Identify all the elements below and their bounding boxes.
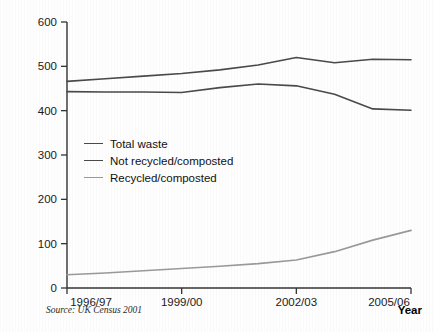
y-tick-label: 0 bbox=[51, 282, 57, 294]
y-tick-label: 300 bbox=[38, 149, 57, 161]
y-tick-label: 400 bbox=[38, 105, 57, 117]
legend-label-recycled: Recycled/composted bbox=[110, 172, 217, 184]
x-tick-label: 2002/03 bbox=[276, 296, 318, 308]
legend-item-not-recycled: Not recycled/composted bbox=[84, 153, 233, 168]
waste-per-person-line-chart: Waste (kg person⁻¹ yr⁻¹) 010020030040050… bbox=[0, 0, 434, 332]
y-tick-label: 200 bbox=[38, 193, 57, 205]
legend-swatch-recycled bbox=[84, 177, 103, 178]
legend-label-total-waste: Total waste bbox=[110, 138, 168, 150]
series-line-2 bbox=[67, 230, 411, 274]
legend-swatch-total-waste bbox=[84, 143, 103, 144]
source-note: Source: UK Census 2001 bbox=[46, 305, 142, 315]
x-tick-label: 1999/00 bbox=[161, 296, 203, 308]
y-tick-label: 100 bbox=[38, 238, 57, 250]
series-line-1 bbox=[67, 84, 411, 110]
y-tick-label: 500 bbox=[38, 60, 57, 72]
series-line-0 bbox=[67, 57, 411, 81]
x-axis-title: Year bbox=[398, 304, 422, 316]
legend-item-total-waste: Total waste bbox=[84, 136, 233, 151]
legend-item-recycled: Recycled/composted bbox=[84, 170, 233, 185]
chart-legend: Total waste Not recycled/composted Recyc… bbox=[84, 136, 233, 187]
y-tick-label: 600 bbox=[38, 16, 57, 28]
legend-swatch-not-recycled bbox=[84, 160, 103, 161]
y-axis-ticks: 0100200300400500600 bbox=[38, 16, 67, 294]
legend-label-not-recycled: Not recycled/composted bbox=[110, 155, 233, 167]
